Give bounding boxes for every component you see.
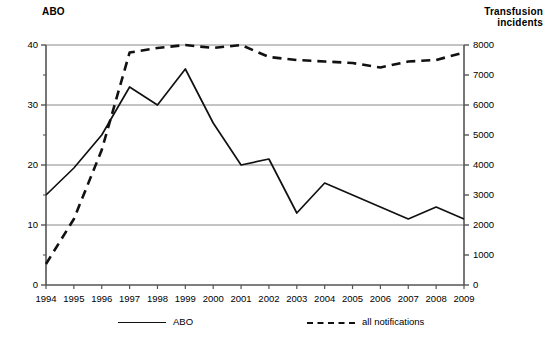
x-axis-tick-label: 2007 (398, 293, 419, 304)
x-axis-tick-label: 2001 (230, 293, 251, 304)
x-axis-tick-label: 2006 (370, 293, 391, 304)
x-axis-tick-label: 1997 (119, 293, 140, 304)
legend-label-all-notifications: all notifications (362, 316, 424, 327)
right-axis-tick-label: 5000 (473, 129, 494, 140)
left-axis-tick-label: 20 (27, 159, 38, 170)
legend-swatch-abo (118, 322, 166, 323)
series-line-abo (46, 69, 464, 219)
right-axis-tick-label: 0 (473, 279, 478, 290)
chart-plot-area: 0102030400100020003000400050006000700080… (0, 0, 549, 339)
left-axis-tick-label: 30 (27, 99, 38, 110)
right-axis-tick-label: 8000 (473, 39, 494, 50)
chart-container: ABO Transfusion incidents 01020304001000… (0, 0, 549, 339)
x-axis-tick-label: 1998 (147, 293, 168, 304)
right-axis-tick-label: 2000 (473, 219, 494, 230)
x-axis-tick-label: 2009 (453, 293, 474, 304)
x-axis-tick-label: 2008 (426, 293, 447, 304)
x-axis-tick-label: 1996 (91, 293, 112, 304)
legend-swatch-all-notifications (307, 322, 355, 324)
x-axis-tick-label: 2002 (258, 293, 279, 304)
left-axis-tick-label: 10 (27, 219, 38, 230)
left-axis-tick-label: 0 (33, 279, 38, 290)
right-axis: 010002000300040005000600070008000 (464, 39, 494, 290)
left-axis-tick-label: 40 (27, 39, 38, 50)
x-axis-tick-label: 2004 (314, 293, 335, 304)
x-axis-tick-label: 1995 (63, 293, 84, 304)
right-axis-tick-label: 3000 (473, 189, 494, 200)
right-axis-tick-label: 4000 (473, 159, 494, 170)
right-axis-tick-label: 6000 (473, 99, 494, 110)
x-axis-tick-label: 1999 (175, 293, 196, 304)
right-axis-tick-label: 7000 (473, 69, 494, 80)
x-axis-tick-label: 2005 (342, 293, 363, 304)
x-axis-tick-label: 2003 (286, 293, 307, 304)
x-axis: 1994199519961997199819992000200120022003… (35, 285, 474, 304)
series-line-all-notifications (46, 45, 464, 264)
legend-label-abo: ABO (173, 316, 193, 327)
x-axis-tick-label: 1994 (35, 293, 56, 304)
left-axis: 010203040 (27, 39, 46, 290)
x-axis-tick-label: 2000 (203, 293, 224, 304)
gridlines (46, 45, 464, 225)
right-axis-tick-label: 1000 (473, 249, 494, 260)
